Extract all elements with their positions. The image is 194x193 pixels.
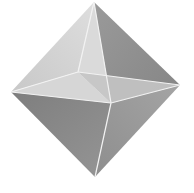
octahedron-shape [0,0,194,193]
octahedron-image: octahedron [0,0,194,193]
face-bottom-left [11,92,111,177]
